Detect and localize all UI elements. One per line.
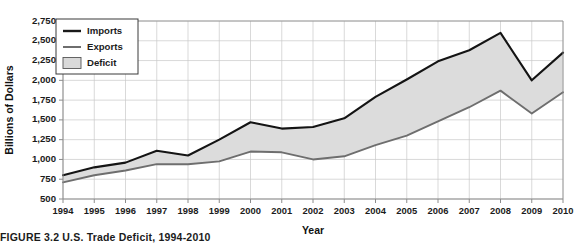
y-tick-label: 2,500	[32, 34, 56, 45]
x-tick-label: 2005	[396, 205, 417, 216]
chart-legend: ImportsExportsDeficit	[56, 19, 138, 74]
legend-label-imports: Imports	[87, 25, 122, 36]
x-tick-label: 2003	[334, 205, 355, 216]
x-tick-label: 2010	[553, 205, 574, 216]
legend-label-exports: Exports	[87, 41, 123, 52]
x-tick-label: 2008	[490, 205, 511, 216]
x-tick-label: 1995	[84, 205, 105, 216]
x-tick-label: 2007	[459, 205, 480, 216]
figure-caption-title: U.S. Trade Deficit, 1994-2010	[62, 231, 210, 243]
x-tick-label: 2001	[271, 205, 292, 216]
y-tick-label: 750	[40, 173, 56, 184]
y-tick-label: 1,000	[32, 153, 56, 164]
y-tick-label: 500	[40, 193, 56, 204]
y-tick-label: 1,250	[32, 133, 56, 144]
trade-deficit-chart: 5007501,0001,2501,5001,7502,0002,2502,50…	[0, 0, 584, 244]
x-tick-label: 1994	[53, 205, 75, 216]
legend-marker-deficit	[63, 58, 81, 69]
y-tick-label: 1,750	[32, 94, 56, 105]
figure-caption-label: FIGURE 3.2	[0, 231, 59, 243]
figure-caption: FIGURE 3.2 U.S. Trade Deficit, 1994-2010	[0, 231, 584, 243]
x-tick-label: 1998	[178, 205, 199, 216]
y-tick-label: 1,500	[32, 113, 56, 124]
x-tick-label: 2002	[303, 205, 324, 216]
y-tick-label: 2,000	[32, 74, 56, 85]
x-tick-label: 1999	[209, 205, 230, 216]
y-axis-title: Billions of Dollars	[3, 65, 15, 154]
legend-label-deficit: Deficit	[87, 57, 117, 68]
y-tick-label: 2,750	[32, 15, 56, 26]
x-tick-label: 1996	[115, 205, 136, 216]
x-tick-label: 1997	[146, 205, 167, 216]
figure-trade-deficit: 5007501,0001,2501,5001,7502,0002,2502,50…	[0, 0, 584, 244]
y-tick-label: 2,250	[32, 54, 56, 65]
x-tick-label: 2000	[240, 205, 261, 216]
x-tick-label: 2009	[521, 205, 542, 216]
x-tick-label: 2006	[428, 205, 449, 216]
x-tick-label: 2004	[365, 205, 387, 216]
